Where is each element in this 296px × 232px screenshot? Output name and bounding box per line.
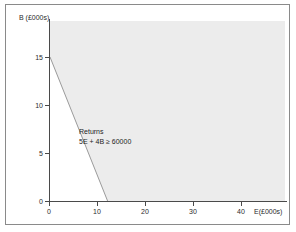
constraint-name-label: Returns bbox=[79, 127, 131, 137]
feasible-region-shading bbox=[50, 21, 285, 201]
x-tick-label-30: 30 bbox=[189, 208, 197, 215]
y-tick-label-0: 0 bbox=[31, 198, 43, 205]
y-tick-label-10: 10 bbox=[31, 102, 43, 109]
figure-frame: 0 10 20 30 40 0 5 10 15 B (£000s) E(£000… bbox=[5, 4, 290, 225]
constraint-inequality-label: 5E + 4B ≥ 60000 bbox=[79, 137, 131, 147]
x-tick-label-10: 10 bbox=[93, 208, 101, 215]
x-tick-20 bbox=[145, 202, 146, 206]
x-tick-label-0: 0 bbox=[47, 208, 51, 215]
x-tick-label-40: 40 bbox=[237, 208, 245, 215]
x-axis-title: E(£000s) bbox=[254, 208, 282, 215]
x-tick-0 bbox=[49, 202, 50, 206]
y-tick-label-15: 15 bbox=[31, 54, 43, 61]
constraint-annotation: Returns 5E + 4B ≥ 60000 bbox=[79, 127, 131, 147]
plot-area bbox=[50, 21, 285, 201]
y-tick-10 bbox=[45, 105, 49, 106]
y-tick-5 bbox=[45, 153, 49, 154]
y-axis-title: B (£000s) bbox=[19, 14, 49, 21]
x-tick-30 bbox=[193, 202, 194, 206]
y-axis-line bbox=[49, 19, 50, 202]
y-tick-15 bbox=[45, 57, 49, 58]
x-tick-10 bbox=[97, 202, 98, 206]
y-tick-0 bbox=[45, 201, 49, 202]
y-tick-label-5: 5 bbox=[31, 150, 43, 157]
x-axis-line bbox=[49, 201, 287, 202]
x-tick-40 bbox=[241, 202, 242, 206]
x-tick-label-20: 20 bbox=[141, 208, 149, 215]
